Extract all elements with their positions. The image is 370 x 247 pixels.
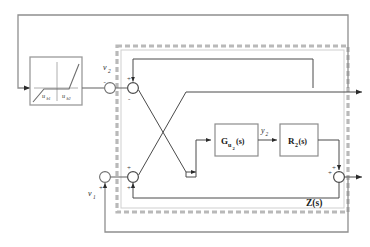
- inner-bottom-feedback-path: [133, 182, 339, 198]
- deadzone-label-right: u: [62, 92, 65, 99]
- label-v1-sub: 1: [93, 194, 96, 200]
- label-y2: y: [260, 126, 265, 135]
- inner-top-feedback-path: [133, 59, 313, 88]
- sign-sumtop-minus: -: [128, 95, 131, 103]
- summing-junction-v2[interactable]: [105, 83, 116, 94]
- sign-sumv1-plus: +: [99, 184, 103, 192]
- deadzone-label-left: u: [42, 92, 45, 99]
- deadzone-block[interactable]: [30, 57, 82, 105]
- label-y2-sub: 2: [265, 131, 268, 137]
- cross-path-bottom-step: [186, 172, 196, 177]
- summing-junction-inner[interactable]: [128, 172, 139, 183]
- sign-sumright-plus-top: +: [332, 164, 336, 172]
- diagram-canvas: u b1 u b2 - v 2 + - + v 1 + + G u 2 (s) …: [0, 0, 370, 247]
- block-diagram-svg: u b1 u b2 - v 2 + - + v 1 + + G u 2 (s) …: [0, 0, 370, 247]
- label-v2-sub: 2: [108, 68, 111, 74]
- summing-junction-top[interactable]: [128, 83, 139, 94]
- summing-junction-right[interactable]: [334, 172, 345, 183]
- block-r2-label: R: [288, 136, 295, 146]
- label-v1: v: [88, 189, 92, 198]
- label-v2: v: [103, 63, 107, 72]
- sign-suminner-plus-bottom: +: [127, 184, 131, 192]
- block-g-u2-suffix: (s): [236, 137, 245, 146]
- subsystem-label-zs: Z(s): [306, 198, 322, 209]
- block-g-u2-label: G: [221, 136, 228, 146]
- sign-sumright-plus-left: +: [328, 169, 332, 177]
- block-r2-sub: 2: [295, 142, 298, 148]
- sign-sumtop-plus: +: [127, 75, 131, 83]
- block-r2-suffix: (s): [299, 137, 308, 146]
- deadzone-label-right-sub: b2: [66, 96, 70, 101]
- block-g-u2-sub: u: [228, 141, 232, 148]
- deadzone-label-left-sub: b1: [46, 96, 50, 101]
- sign-suminner-plus-top: +: [127, 164, 131, 172]
- summing-junction-v1[interactable]: [100, 172, 111, 183]
